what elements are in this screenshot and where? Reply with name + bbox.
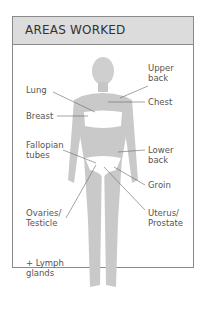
label-chest: Chest (148, 97, 172, 107)
label-lower-back: Lower back (148, 145, 173, 165)
label-breast: Breast (26, 111, 53, 121)
label-upper-back: Upper back (148, 63, 174, 83)
label-lung: Lung (26, 85, 47, 95)
label-uterus-prostate: Uterus/ Prostate (148, 208, 183, 228)
label-fallopian-tubes: Fallopian tubes (26, 140, 64, 160)
label-lymph-glands: + Lymph glands (26, 258, 64, 278)
label-groin: Groin (148, 180, 171, 190)
label-ovaries-testicle: Ovaries/ Testicle (26, 208, 61, 228)
